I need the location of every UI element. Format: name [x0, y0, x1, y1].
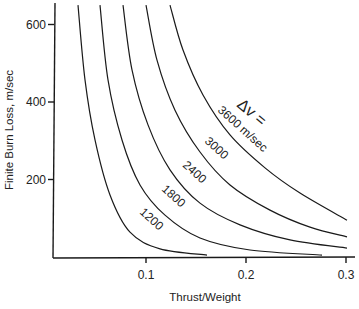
x-tick-label: 0.1: [138, 268, 155, 282]
y-ticks: 200400600: [26, 18, 54, 187]
x-tick-label: 0.3: [338, 268, 355, 282]
x-axis: [53, 257, 355, 258]
y-axis: [53, 3, 55, 258]
curve-label-1800: 1800: [159, 182, 188, 210]
x-axis-label: Thrust/Weight: [169, 291, 241, 303]
x-ticks: 0.10.20.3: [138, 257, 355, 282]
y-axis-label: Finite Burn Loss, m/sec: [3, 70, 15, 190]
burn-loss-chart: 200400600 0.10.20.3 Thrust/Weight Finite…: [0, 0, 359, 309]
curve-label-1200: 1200: [137, 205, 166, 233]
curves: [78, 5, 347, 255]
y-tick-label: 200: [26, 173, 46, 187]
curve-label-3000: 3000: [202, 134, 231, 162]
y-tick-label: 400: [26, 95, 46, 109]
curve-label-2400: 2400: [180, 158, 209, 186]
curve-dv-1800: [100, 5, 322, 255]
y-tick-label: 600: [26, 18, 46, 32]
x-tick-label: 0.2: [238, 268, 255, 282]
